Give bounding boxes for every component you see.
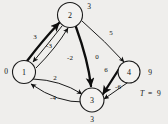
node-4[interactable]: 4 9 xyxy=(118,61,152,83)
node-3-distance: 3 xyxy=(90,115,94,124)
graph-svg: 3 -3 -2 0 5 6 -6 2 -4 1 0 2 3 3 xyxy=(0,0,168,124)
node-1-label: 1 xyxy=(22,68,26,77)
node-3[interactable]: 3 3 xyxy=(80,88,104,124)
t-equals-sign: = xyxy=(148,89,152,98)
node-group: 1 0 2 3 3 3 4 9 xyxy=(4,2,152,124)
node-4-distance: 9 xyxy=(148,68,152,77)
edge-1-to-3 xyxy=(33,79,82,94)
t-value: 9 xyxy=(157,89,161,98)
edge-1-to-2 xyxy=(27,23,59,61)
edge-weight-label: 3 xyxy=(33,33,37,41)
t-annotation: T = 9 xyxy=(140,89,161,98)
node-1[interactable]: 1 0 xyxy=(4,61,35,84)
edge-weight-label: 2 xyxy=(53,74,57,82)
node-1-distance: 0 xyxy=(4,67,8,76)
node-3-label: 3 xyxy=(90,96,94,105)
edge-weight-label: 6 xyxy=(104,66,108,74)
edge-weight-label: -2 xyxy=(67,54,73,62)
edge-weight-label: -4 xyxy=(50,94,56,102)
node-2-distance: 3 xyxy=(87,2,91,11)
edge-2-to-4 xyxy=(82,21,124,62)
graph-diagram-canvas: 3 -3 -2 0 5 6 -6 2 -4 1 0 2 3 3 xyxy=(0,0,168,124)
edge-weight-label: -3 xyxy=(46,42,52,50)
edge-weight-label: 5 xyxy=(109,29,113,37)
t-symbol: T xyxy=(140,89,145,98)
edge-weight-label: -6 xyxy=(115,83,121,91)
node-4-label: 4 xyxy=(127,68,131,77)
node-2-label: 2 xyxy=(68,11,72,20)
edge-3-to-1 xyxy=(31,84,84,102)
node-2[interactable]: 2 3 xyxy=(58,2,92,28)
edge-1-to-2-alt xyxy=(36,28,68,68)
edge-2-to-3 xyxy=(76,27,91,86)
edge-weight-label: 0 xyxy=(95,53,99,61)
